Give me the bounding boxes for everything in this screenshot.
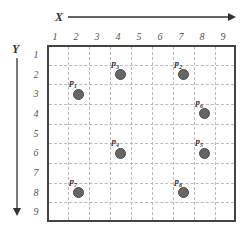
grid-vertical-line [194, 47, 195, 220]
grid-vertical-line [215, 47, 216, 220]
point-p4 [115, 148, 126, 159]
point-label: p6 [196, 97, 204, 109]
grid-horizontal-line [49, 202, 234, 203]
point-p5 [199, 148, 210, 159]
point-label: p3 [112, 58, 120, 70]
y-tick-label: 1 [29, 49, 43, 61]
y-tick-label: 7 [29, 167, 43, 179]
x-tick-label: 1 [48, 31, 62, 43]
y-axis-arrow-icon [12, 58, 22, 216]
point-label: p1 [70, 77, 78, 89]
grid-horizontal-line [49, 104, 234, 105]
grid-horizontal-line [49, 163, 234, 164]
point-p2 [178, 69, 189, 80]
x-tick-label: 3 [90, 31, 104, 43]
point-label: p4 [112, 136, 120, 148]
grid-vertical-line [89, 47, 90, 220]
y-tick-label: 8 [29, 187, 43, 199]
y-tick-label: 6 [29, 147, 43, 159]
x-tick-label: 4 [111, 31, 125, 43]
y-axis-label: Y [12, 42, 19, 57]
y-tick-label: 3 [29, 88, 43, 100]
y-tick-label: 2 [29, 69, 43, 81]
point-label: p5 [196, 136, 204, 148]
point-label: p2 [175, 58, 183, 70]
grid-vertical-line [131, 47, 132, 220]
point-p3 [115, 69, 126, 80]
point-p1 [73, 89, 84, 100]
x-axis-arrow-icon [68, 12, 236, 22]
grid-vertical-line [173, 47, 174, 220]
x-tick-label: 9 [216, 31, 230, 43]
point-p8 [178, 187, 189, 198]
point-p7 [73, 187, 84, 198]
y-tick-label: 5 [29, 128, 43, 140]
grid-horizontal-line [49, 124, 234, 125]
x-tick-label: 8 [195, 31, 209, 43]
x-tick-label: 7 [174, 31, 188, 43]
x-axis-label: X [55, 10, 63, 25]
y-tick-label: 9 [29, 206, 43, 218]
y-tick-label: 4 [29, 108, 43, 120]
x-tick-label: 6 [153, 31, 167, 43]
grid-horizontal-line [49, 65, 234, 66]
grid-vertical-line [68, 47, 69, 220]
grid-horizontal-line [49, 143, 234, 144]
x-tick-label: 5 [132, 31, 146, 43]
x-tick-label: 2 [69, 31, 83, 43]
grid-vertical-line [152, 47, 153, 220]
grid-vertical-line [110, 47, 111, 220]
point-label: p8 [175, 176, 183, 188]
point-label: p7 [70, 176, 78, 188]
